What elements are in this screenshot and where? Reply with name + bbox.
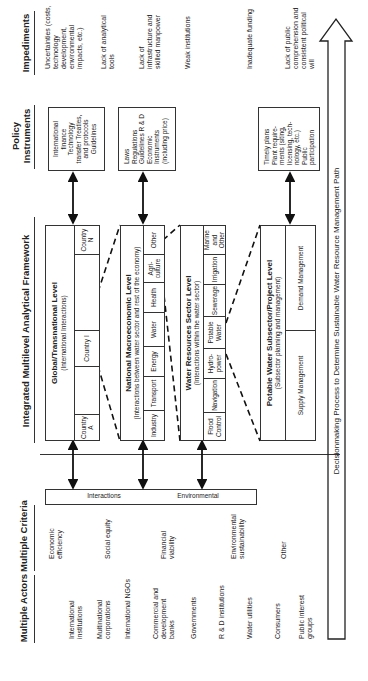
- policy-box-national: Laws Regulations Guidelines R & D Econom…: [118, 107, 176, 171]
- water-level-subtitle: (Interactions within the water sector): [193, 226, 200, 440]
- policy-text: International finance Technology transfe…: [52, 112, 97, 166]
- cell-health: Health: [144, 282, 164, 312]
- potable-level-title: Potable Water Subsector/Project Level: [265, 226, 274, 440]
- water-level-title: Water Resources Sector Level: [184, 226, 193, 440]
- cell-energy: Energy: [144, 346, 164, 376]
- national-level-box: National Macroeconomic Level (Interactio…: [120, 225, 165, 441]
- cell-demand-management: Demand Management: [286, 226, 315, 330]
- impediment-item: Inadequate funding: [246, 9, 254, 69]
- global-level-title: Global/Transnational Level: [50, 226, 59, 440]
- policy-box-project: Timely plans Plant require-ments (siting…: [258, 107, 320, 171]
- cell-agriculture: Agri-culture: [144, 254, 164, 282]
- water-resource-framework-diagram: Multiple Actors Multiple Criteria Integr…: [0, 0, 368, 681]
- impediment-item: Weak institutions: [184, 9, 192, 69]
- cell-industry: Industry: [144, 410, 164, 440]
- global-level-cells: Country A Country I Country N: [74, 226, 99, 440]
- cell-supply-management: Supply Management: [286, 330, 315, 440]
- cell-other: Other: [144, 226, 164, 254]
- cell-irrigation: Irrigation: [204, 254, 225, 284]
- cell-marine-other: Marine and Other: [204, 226, 225, 254]
- potable-level-subtitle: (Subsector planning and management): [274, 226, 281, 440]
- national-level-subtitle: (Interactions between water sector and r…: [133, 226, 140, 440]
- impediment-item: Lack of public comprehension and consist…: [284, 3, 316, 69]
- water-resources-level-box: Water Resources Sector Level (Interactio…: [180, 225, 226, 441]
- cell-country-n: Country N: [75, 226, 99, 254]
- national-level-title: National Macroeconomic Level: [124, 226, 133, 440]
- impediment-item: Uncertainties (costs, technology develop…: [44, 3, 84, 69]
- cell-potable-water: Potable Water: [204, 316, 225, 348]
- global-level-subtitle: (International Interactions): [60, 226, 67, 440]
- water-level-cells: Flood Control Navigation Hydro-power Pot…: [203, 226, 225, 440]
- cell-spacer: [75, 366, 99, 414]
- potable-level-cells: Supply Management Demand Management: [285, 226, 315, 440]
- impediment-item: Lack of infrastructure and skilled manpo…: [138, 9, 162, 69]
- national-level-cells: Industry Transport Energy Water Health A…: [143, 226, 164, 440]
- impediment-item: Lack of analytical tools: [100, 9, 116, 69]
- decisionmaking-arrow-label: Decisionmaking Process to Determine Sust…: [330, 51, 343, 591]
- policy-text: Timely plans Plant require-ments (siting…: [263, 113, 316, 165]
- cell-transport: Transport: [144, 376, 164, 410]
- cell-flood-control: Flood Control: [204, 412, 225, 440]
- cell-country-i: Country I: [75, 330, 99, 366]
- policy-box-international: International finance Technology transfe…: [48, 107, 105, 171]
- cell-country-a: Country A: [75, 414, 99, 440]
- cell-spacer: [75, 254, 99, 330]
- cell-hydropower: Hydro-power: [204, 348, 225, 378]
- potable-water-level-box: Potable Water Subsector/Project Level (S…: [260, 225, 316, 441]
- cell-navigation: Navigation: [204, 378, 225, 412]
- cell-water: Water: [144, 312, 164, 346]
- global-level-box: Global/Transnational Level (Internationa…: [45, 225, 100, 441]
- cell-sewerage: Sewerage: [204, 284, 225, 316]
- policy-text: Laws Regulations Guidelines R & D Econom…: [123, 114, 168, 164]
